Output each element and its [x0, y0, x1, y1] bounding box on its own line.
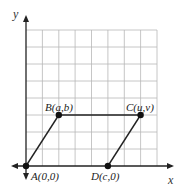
point-d-label: D(c,0)	[90, 170, 120, 183]
x-axis-right-arrow-icon	[167, 163, 174, 169]
grid	[26, 30, 157, 166]
x-axis-label: x	[167, 173, 174, 187]
point-c-label: C(u,v)	[126, 101, 154, 114]
point-a-label: A(0,0)	[30, 170, 59, 183]
parallelogram	[26, 115, 141, 166]
coordinate-plane: y x A(0,0) B(a,b) C(u,v) D(c,0)	[0, 0, 185, 194]
axes	[13, 20, 172, 178]
point-d	[105, 163, 111, 169]
y-axis-up-arrow-icon	[23, 15, 29, 22]
y-axis-label: y	[12, 7, 19, 21]
point-b-label: B(a,b)	[45, 101, 73, 114]
y-axis-down-arrow-icon	[23, 173, 29, 180]
x-axis-left-arrow-icon	[11, 163, 18, 169]
point-a	[23, 163, 29, 169]
